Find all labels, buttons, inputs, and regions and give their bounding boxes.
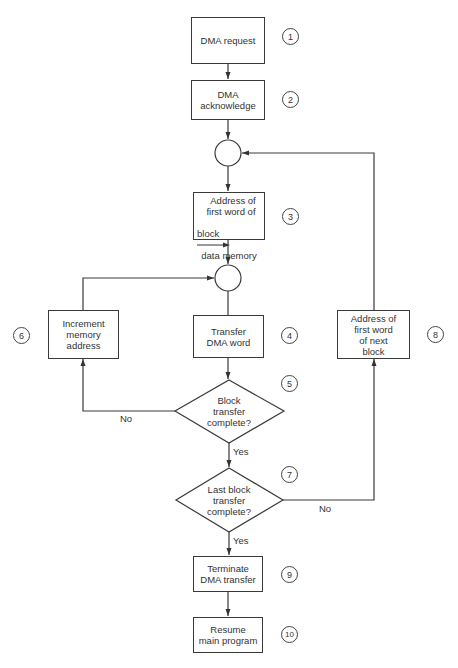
node-label: Increment memory address: [62, 318, 104, 351]
edge-label-last-no: No: [319, 503, 331, 514]
step-marker-1: 1: [282, 28, 299, 45]
step-marker-6: 6: [13, 327, 30, 344]
decision-label-block-complete: Block transfer complete?: [189, 395, 269, 428]
step-marker-8: 8: [427, 326, 444, 343]
node-address-first-word: Address of first word of block data memo…: [193, 192, 265, 240]
decision-label-last-block-complete: Last block transfer complete?: [189, 484, 269, 517]
step-marker-9: 9: [281, 566, 298, 583]
node-label-text: block: [197, 228, 219, 239]
node-transfer-dma-word: Transfer DMA word: [193, 315, 264, 358]
node-label-line: first word of: [194, 206, 264, 217]
step-marker-3: 3: [282, 208, 299, 225]
node-resume-main-program: Resume main program: [193, 617, 263, 653]
node-label: Resume main program: [199, 624, 258, 646]
step-marker-7: 7: [281, 466, 298, 483]
node-dma-request: DMA request: [191, 17, 265, 64]
step-marker-2: 2: [282, 91, 299, 108]
edge-increment-to-junction2: [83, 278, 214, 310]
node-label: DMA acknowledge: [200, 89, 255, 111]
junction-1: [215, 140, 241, 166]
node-label: Terminate DMA transfer: [200, 563, 255, 585]
edge-label-block-no: No: [120, 413, 132, 424]
edge-label-last-yes: Yes: [233, 535, 249, 546]
junction-2: [215, 265, 241, 291]
node-terminate-dma-transfer: Terminate DMA transfer: [193, 556, 263, 592]
step-marker-4: 4: [281, 327, 298, 344]
edge-block-no-to-increment: [83, 359, 175, 411]
step-marker-5: 5: [281, 375, 298, 392]
node-label-line: data memory: [194, 250, 264, 261]
node-dma-acknowledge: DMA acknowledge: [191, 80, 265, 120]
node-address-next-block: Address of first word of next block: [337, 310, 410, 359]
edge-label-block-yes: Yes: [233, 446, 249, 457]
step-marker-10: 10: [281, 626, 298, 643]
node-label-line: block: [194, 217, 264, 250]
arrow-right-icon: [197, 242, 231, 248]
node-label-line: Address of: [194, 195, 264, 206]
node-label: Address of first word of next block: [351, 313, 396, 357]
node-label: Transfer DMA word: [207, 326, 251, 348]
node-label: DMA request: [201, 35, 256, 46]
node-increment-memory-address: Increment memory address: [48, 310, 119, 359]
